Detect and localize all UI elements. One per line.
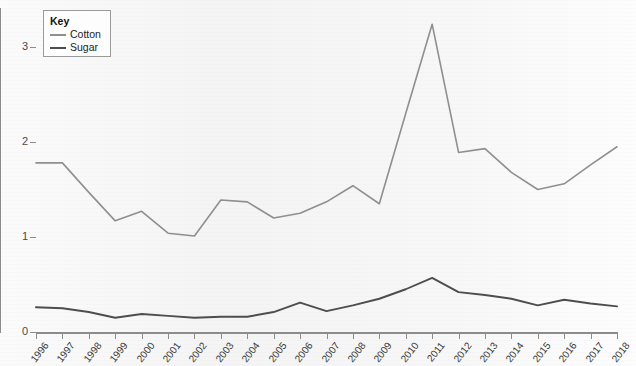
chart-figure: Price (US$ per kg) 0123 1996199719981999… [0, 0, 636, 366]
legend-label-cotton: Cotton [70, 28, 101, 41]
legend-swatch-sugar [50, 47, 66, 49]
legend-label-sugar: Sugar [70, 41, 98, 54]
chart-legend: Key Cotton Sugar [43, 10, 111, 57]
legend-item-sugar: Sugar [50, 41, 104, 54]
legend-title: Key [50, 15, 104, 27]
series-line-cotton [36, 24, 617, 236]
legend-item-cotton: Cotton [50, 28, 104, 41]
legend-swatch-cotton [50, 34, 66, 36]
series-line-sugar [36, 278, 617, 318]
